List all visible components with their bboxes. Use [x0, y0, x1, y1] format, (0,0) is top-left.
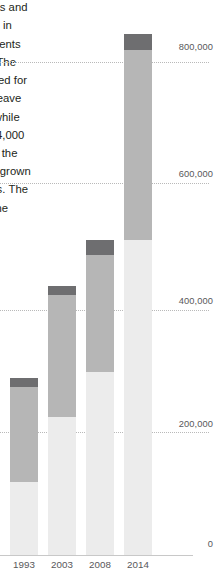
y-axis-label-800000: 800,000: [179, 42, 213, 52]
bar-1993-segment-middle: [10, 387, 38, 482]
x-axis-label-2008: 2008: [80, 559, 120, 570]
gridline-600000: [0, 183, 209, 184]
bar-2003-segment-lower: [48, 417, 76, 555]
chart-plot-area: 800,000 600,000 400,000 200,000 0 1993 2…: [0, 0, 216, 573]
y-axis-label-400000: 400,000: [179, 296, 213, 306]
stacked-bar-chart: 800,000 600,000 400,000 200,000 0 1993 2…: [0, 0, 216, 573]
gridline-800000: [0, 62, 209, 63]
y-axis-label-200000: 200,000: [179, 419, 213, 429]
bar-2014-segment-top: [124, 34, 152, 50]
y-axis-label-600000: 600,000: [179, 169, 213, 179]
bar-2014-segment-lower: [124, 240, 152, 555]
x-axis-label-2003: 2003: [42, 559, 82, 570]
bar-2014-segment-middle: [124, 50, 152, 240]
bar-2008-segment-middle: [86, 255, 114, 372]
bar-2008-segment-top: [86, 240, 114, 255]
y-axis-label-0: 0: [208, 539, 213, 549]
bar-2008-segment-lower: [86, 372, 114, 555]
bar-1993-segment-lower: [10, 482, 38, 555]
bar-1993-segment-top: [10, 378, 38, 387]
x-axis-label-2014: 2014: [118, 559, 158, 570]
bar-2003-segment-top: [48, 286, 76, 295]
chart-page: new wells and k started in f settlements…: [0, 0, 216, 573]
x-axis-label-1993: 1993: [4, 559, 44, 570]
bar-2003-segment-middle: [48, 295, 76, 417]
axis-baseline: [0, 555, 193, 556]
